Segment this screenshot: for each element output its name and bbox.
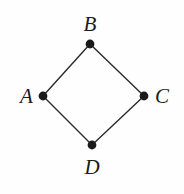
vertex-group (39, 40, 149, 150)
vertex-label-c: C (155, 86, 169, 107)
vertex-label-b: B (84, 14, 97, 35)
edge-b-c (90, 44, 144, 96)
vertex-b-dot[interactable] (86, 40, 95, 49)
vertex-label-d: D (85, 157, 100, 178)
edge-a-b (43, 44, 90, 96)
vertex-label-a: A (20, 86, 33, 107)
graph-figure: B A C D (0, 0, 184, 194)
edge-d-a (43, 96, 92, 145)
vertex-d-dot[interactable] (88, 141, 97, 150)
vertex-c-dot[interactable] (140, 92, 149, 101)
edge-c-d (92, 96, 144, 145)
vertex-a-dot[interactable] (39, 92, 48, 101)
edge-group (43, 44, 144, 145)
